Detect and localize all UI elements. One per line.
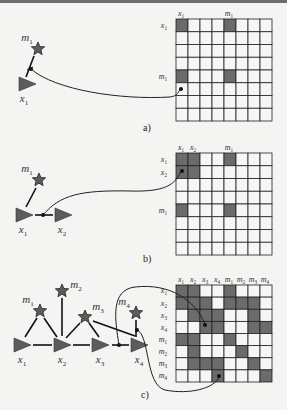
panel-b: x1x2m1x1x2m1b)m1x1x2: [16, 143, 272, 265]
label: x4: [160, 323, 168, 333]
panel-caption: c): [141, 389, 149, 401]
matrix-cell-filled: [248, 321, 260, 333]
matrix-cell: [212, 191, 224, 204]
label: x1: [177, 143, 185, 153]
edge-x1-m1: [25, 318, 37, 337]
matrix-cell-filled: [224, 204, 236, 217]
matrix-cell: [224, 45, 236, 58]
matrix-cell: [236, 309, 248, 321]
panel-caption: b): [143, 253, 151, 265]
matrix-cell: [236, 19, 248, 32]
matrix-cell: [260, 334, 272, 346]
matrix-cell: [200, 334, 212, 346]
matrix-cell: [224, 358, 236, 370]
matrix-cell: [188, 108, 200, 121]
label: m1: [159, 335, 168, 345]
matrix-cell-filled: [188, 297, 200, 309]
matrix-cell: [236, 166, 248, 179]
factor-graph-figure: x1m1x1m1a)m1x1x1x2m1x1x2m1b)m1x1x2x1x2x3…: [0, 0, 287, 410]
matrix-cell: [236, 45, 248, 58]
matrix-cell: [248, 70, 260, 83]
matrix-cell: [224, 321, 236, 333]
matrix-cell-filled: [200, 321, 212, 333]
label: x1: [177, 275, 185, 285]
matrix-cell: [212, 19, 224, 32]
label: x1: [19, 92, 29, 107]
matrix-cell: [188, 204, 200, 217]
label: m1: [225, 143, 234, 153]
edge-x3-m3: [89, 323, 99, 337]
matrix-cell: [200, 166, 212, 179]
matrix-cell: [224, 108, 236, 121]
matrix-cell: [176, 57, 188, 70]
matrix-cell: [212, 96, 224, 109]
matrix-cell: [224, 96, 236, 109]
matrix-cell: [236, 370, 248, 382]
matrix-cell: [248, 153, 260, 166]
matrix-cell: [236, 230, 248, 243]
matrix-cell: [248, 83, 260, 96]
matrix-cell: [188, 321, 200, 333]
label: x2: [189, 143, 197, 153]
matrix-cell: [176, 217, 188, 230]
matrix-cell: [260, 153, 272, 166]
label: m1: [21, 162, 33, 177]
matrix-cell-filled: [176, 19, 188, 32]
matrix-cell: [176, 242, 188, 255]
pose-x2-icon: [54, 338, 71, 352]
matrix-cell: [212, 45, 224, 58]
matrix-cell: [212, 217, 224, 230]
matrix-cell-filled: [236, 346, 248, 358]
matrix-cell-filled: [260, 370, 272, 382]
matrix-cell: [236, 217, 248, 230]
matrix-cell: [248, 108, 260, 121]
matrix-cell: [224, 32, 236, 45]
matrix-cell: [260, 96, 272, 109]
matrix-cell: [236, 179, 248, 192]
label: x2: [160, 168, 168, 178]
pose-x3-icon: [92, 338, 109, 352]
label: m1: [159, 72, 168, 82]
landmark-m2-icon: [55, 284, 68, 297]
matrix-cell-filled: [176, 70, 188, 83]
matrix-cell: [212, 83, 224, 96]
matrix-cell: [260, 45, 272, 58]
matrix-cell: [236, 285, 248, 297]
matrix-cell: [260, 108, 272, 121]
matrix-cell: [200, 230, 212, 243]
matrix-cell: [200, 83, 212, 96]
pose-x1-icon: [16, 208, 33, 222]
matrix-cell: [188, 70, 200, 83]
matrix-cell: [188, 217, 200, 230]
edge-x2-m1: [44, 318, 57, 337]
matrix-cell: [176, 309, 188, 321]
matrix-cell: [224, 309, 236, 321]
label: m4: [159, 371, 168, 381]
matrix-cell: [248, 191, 260, 204]
matrix-cell: [248, 45, 260, 58]
matrix-cell: [236, 70, 248, 83]
matrix-cell: [212, 166, 224, 179]
matrix-cell: [224, 242, 236, 255]
label: m1: [21, 31, 33, 46]
matrix-cell: [224, 179, 236, 192]
matrix-cell: [248, 32, 260, 45]
label: m4: [261, 275, 270, 285]
matrix-cell: [224, 230, 236, 243]
edge-x2-m3: [66, 323, 80, 338]
pose-x2-icon: [55, 208, 72, 222]
edge-x4-m3: [93, 321, 135, 336]
matrix-cell-filled: [236, 297, 248, 309]
matrix-cell-filled: [224, 153, 236, 166]
matrix-cell-filled: [248, 297, 260, 309]
matrix-cell: [200, 370, 212, 382]
matrix-cell: [236, 321, 248, 333]
matrix-cell: [248, 166, 260, 179]
matrix-cell: [200, 179, 212, 192]
matrix-cell: [260, 358, 272, 370]
matrix-cell: [248, 242, 260, 255]
matrix-cell: [212, 70, 224, 83]
matrix-cell: [248, 217, 260, 230]
landmark-m3-icon: [78, 310, 91, 323]
matrix-cell-filled: [188, 334, 200, 346]
